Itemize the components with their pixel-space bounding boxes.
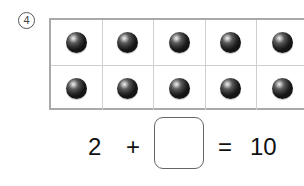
equals-sign: = xyxy=(218,127,232,167)
ball-icon xyxy=(66,32,87,53)
grid-cell xyxy=(206,20,258,66)
ball-icon xyxy=(272,32,293,53)
grid-cell xyxy=(51,66,103,110)
ball-icon xyxy=(169,78,190,99)
problem-number-label: 4 xyxy=(18,12,35,29)
ball-icon xyxy=(169,32,190,53)
plus-operator: + xyxy=(126,127,140,167)
grid-cell xyxy=(257,20,304,66)
grid-cell xyxy=(103,20,155,66)
left-operand: 2 xyxy=(88,127,101,167)
result-value: 10 xyxy=(250,127,277,167)
grid-cell xyxy=(154,20,206,66)
grid-cell xyxy=(154,66,206,110)
ball-icon xyxy=(272,78,293,99)
ten-frame-grid xyxy=(49,18,304,110)
grid-cell xyxy=(206,66,258,110)
answer-input-box[interactable] xyxy=(154,117,204,169)
ball-icon xyxy=(220,78,241,99)
ball-icon xyxy=(117,32,138,53)
ball-icon xyxy=(117,78,138,99)
grid-cell xyxy=(103,66,155,110)
ball-icon xyxy=(66,78,87,99)
ball-icon xyxy=(220,32,241,53)
grid-cell xyxy=(257,66,304,110)
grid-cell xyxy=(51,20,103,66)
